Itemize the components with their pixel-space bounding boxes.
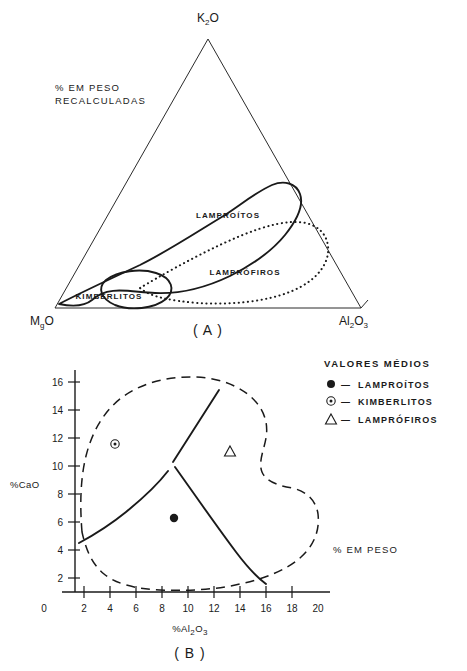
figure-root: LAMPROÍTOS LAMPRÓFIROS KIMBERLITOS K2O M…: [0, 0, 467, 671]
legend-label-lamproitos: LAMPROÍTOS: [358, 380, 430, 390]
ternary-corner-label-al2o3: Al2O3: [339, 314, 368, 330]
legend-dash-kimberlitos: —: [341, 397, 351, 407]
x-tick-label-8: 8: [159, 603, 165, 614]
circled-dot-icon: [327, 397, 335, 405]
legend-item-lamprofiros: — LAMPRÓFIROS: [326, 414, 438, 425]
divider-upper-boundary: [173, 390, 219, 462]
y-axis-ticks: [68, 382, 80, 578]
x-tick-label-14: 14: [234, 603, 246, 614]
field-label-lamprofiros: LAMPRÓFIROS: [209, 268, 280, 277]
legend-title: VALORES MÉDIOS: [324, 358, 430, 369]
panel-a-note-line2: RECALCULADAS: [55, 95, 146, 106]
x-tick-label-18: 18: [286, 603, 298, 614]
legend-label-lamprofiros: LAMPRÓFIROS: [358, 414, 438, 425]
x-tick-label-16: 16: [260, 603, 272, 614]
envelope-outline-overall-field: [81, 377, 319, 590]
triangle-corner-tick-right: [361, 300, 368, 308]
y-tick-label-4: 4: [57, 545, 63, 556]
field-label-lamproitos: LAMPROÍTOS: [196, 211, 260, 220]
x-tick-label-0: 0: [41, 603, 47, 614]
x-tick-label-12: 12: [208, 603, 220, 614]
x-tick-label-20: 20: [312, 603, 324, 614]
panel-a-ternary-diagram: LAMPROÍTOS LAMPRÓFIROS KIMBERLITOS K2O M…: [0, 0, 467, 340]
y-tick-label-6: 6: [57, 517, 63, 528]
y-tick-label-16: 16: [52, 377, 64, 388]
data-point-lamproitos: [170, 514, 178, 522]
x-axis-title: %Al2O3: [172, 623, 208, 637]
field-label-kimberlitos: KIMBERLITOS: [75, 292, 142, 301]
y-tick-label-2: 2: [57, 573, 63, 584]
field-outline-lamprofiros: [140, 222, 328, 304]
field-outline-kimberlitos: [101, 271, 171, 309]
y-tick-label-14: 14: [52, 405, 64, 416]
panel-a-note-line1: % EM PESO: [55, 82, 120, 93]
filled-circle-icon: [327, 380, 335, 388]
panel-b-caption: ( B ): [174, 645, 205, 661]
y-axis-title: %CaO: [10, 479, 40, 490]
legend-dash-lamprofiros: —: [341, 415, 351, 425]
x-tick-label-10: 10: [182, 603, 194, 614]
legend-item-lamproitos: — LAMPROÍTOS: [327, 380, 430, 390]
y-tick-label-8: 8: [57, 489, 63, 500]
x-tick-label-2: 2: [81, 603, 87, 614]
ternary-apex-label-k2o: K2O: [197, 11, 219, 27]
field-outline-lamproitos: [59, 183, 301, 306]
panel-a-caption: ( A ): [193, 322, 223, 338]
open-triangle-icon: [326, 414, 337, 424]
panel-b-scatter-plot: 16 14 12 10 8 6 4 2 0 2 4 6 8 10 12 14 1…: [0, 340, 467, 671]
ternary-triangle-outline: [55, 39, 361, 308]
x-tick-label-4: 4: [107, 603, 113, 614]
data-point-kimberlitos: [111, 440, 119, 448]
divider-kimberlite-lamproite: [79, 471, 168, 543]
ternary-corner-label-mgo: MgO: [30, 314, 54, 330]
legend: VALORES MÉDIOS — LAMPROÍTOS — KIMBERLITO…: [324, 358, 438, 425]
legend-dash-lamproitos: —: [341, 380, 351, 390]
y-tick-label-10: 10: [52, 461, 64, 472]
panel-b-note: % EM PESO: [333, 544, 398, 555]
divider-lamproite-lamprophyre: [175, 467, 266, 584]
legend-label-kimberlitos: KIMBERLITOS: [358, 397, 433, 407]
x-tick-label-6: 6: [133, 603, 139, 614]
legend-item-kimberlitos: — KIMBERLITOS: [327, 397, 433, 407]
y-tick-label-12: 12: [52, 433, 64, 444]
data-point-lamprofiros: [225, 446, 236, 456]
